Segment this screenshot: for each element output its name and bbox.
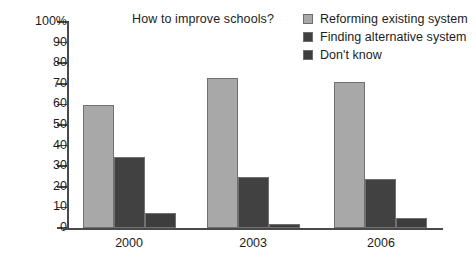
y-tick-label: 100% xyxy=(13,15,67,28)
bar xyxy=(396,218,427,228)
y-tick-label: 10 xyxy=(13,200,67,213)
bar xyxy=(269,224,300,228)
y-axis-ticks: 100%9080706050403020100 xyxy=(0,0,67,257)
plot-area xyxy=(67,22,443,228)
bar-group xyxy=(83,22,176,228)
y-tick-label: 20 xyxy=(13,180,67,193)
bar xyxy=(145,213,176,228)
bar xyxy=(238,177,269,229)
y-tick-label: 90 xyxy=(13,36,67,49)
x-axis-category-label: 2003 xyxy=(213,236,293,250)
bar xyxy=(334,82,365,228)
bar xyxy=(207,78,238,228)
bar xyxy=(83,105,114,228)
bar-group xyxy=(334,22,427,228)
x-axis-category-label: 2006 xyxy=(341,236,421,250)
y-tick-label: 50 xyxy=(13,118,67,131)
bar xyxy=(114,157,145,228)
x-axis-category-label: 2000 xyxy=(89,236,169,250)
y-tick-label: 30 xyxy=(13,159,67,172)
bar-chart: How to improve schools? Reforming existi… xyxy=(0,0,476,257)
y-tick-label: 0 xyxy=(13,221,67,234)
bar-group xyxy=(207,22,300,228)
y-tick-label: 80 xyxy=(13,56,67,69)
bar xyxy=(365,179,396,228)
y-tick-label: 60 xyxy=(13,97,67,110)
x-axis-line xyxy=(63,228,443,230)
y-tick-label: 70 xyxy=(13,77,67,90)
y-tick-label: 40 xyxy=(13,139,67,152)
